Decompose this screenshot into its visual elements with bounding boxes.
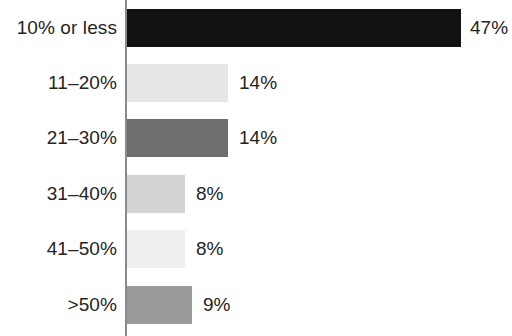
- bar-value-label: 14%: [239, 55, 277, 111]
- category-label: 11–20%: [0, 55, 117, 111]
- bar: [127, 230, 185, 268]
- bar: [127, 9, 461, 47]
- bar-value-label: 14%: [239, 110, 277, 166]
- bar-row: 21–30% 14%: [0, 110, 512, 166]
- bar-container: [127, 166, 185, 222]
- bar-container: [127, 110, 228, 166]
- category-label: >50%: [0, 277, 117, 333]
- bar-value-label: 47%: [470, 0, 508, 56]
- bar-row: >50% 9%: [0, 277, 512, 333]
- bar-value-label: 9%: [203, 277, 230, 333]
- bar-container: [127, 55, 228, 111]
- bar-rows: 10% or less 47% 11–20% 14% 21–30% 14% 31…: [0, 0, 512, 336]
- category-label: 31–40%: [0, 166, 117, 222]
- bar-row: 10% or less 47%: [0, 0, 512, 56]
- bar: [127, 119, 228, 157]
- bar-container: [127, 221, 185, 277]
- category-label: 21–30%: [0, 110, 117, 166]
- bar: [127, 64, 228, 102]
- category-label: 10% or less: [0, 0, 117, 56]
- bar: [127, 286, 192, 324]
- bar-container: [127, 0, 461, 56]
- bar-row: 11–20% 14%: [0, 55, 512, 111]
- bar-container: [127, 277, 192, 333]
- bar-row: 31–40% 8%: [0, 166, 512, 222]
- bar-value-label: 8%: [196, 221, 223, 277]
- bar-value-label: 8%: [196, 166, 223, 222]
- category-label: 41–50%: [0, 221, 117, 277]
- bar-row: 41–50% 8%: [0, 221, 512, 277]
- bar-chart: 10% or less 47% 11–20% 14% 21–30% 14% 31…: [0, 0, 512, 336]
- bar: [127, 175, 185, 213]
